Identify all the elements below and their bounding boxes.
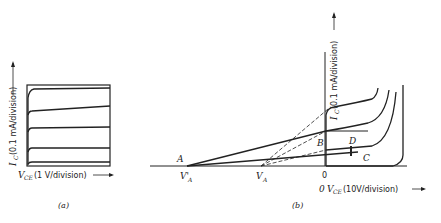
- curve-ib3: [28, 127, 110, 132]
- panel-b-x-axis-label: 0 V CE (10V/division): [319, 184, 398, 195]
- label-va-prime: V' A: [180, 171, 193, 183]
- label-c: C: [363, 153, 370, 163]
- svg-text:I: I: [329, 116, 339, 121]
- svg-text:(1 V/division): (1 V/division): [34, 171, 87, 180]
- panel-b-y-axis-label: I C (0.1 mA/division): [329, 41, 340, 121]
- curve-ib1: [28, 162, 110, 164]
- panel-a-x-axis-label: V CE (1 V/division): [18, 170, 87, 181]
- panel-a-caption: (a): [58, 201, 69, 210]
- svg-text:CE: CE: [333, 188, 343, 195]
- label-d: D: [348, 136, 356, 146]
- panel-a-x-arrowhead: [109, 173, 114, 177]
- curve-ib5: [28, 88, 110, 165]
- svg-text:0: 0: [319, 184, 325, 194]
- svg-text:I: I: [8, 162, 18, 167]
- curve-ib2: [28, 148, 110, 152]
- panel-b-x-arrowhead: [421, 187, 426, 191]
- label-va: V A: [256, 171, 268, 183]
- figure-canvas: I C (0.1 mA/division) V CE (1 V/division…: [0, 0, 441, 223]
- svg-text:(10V/division): (10V/division): [343, 185, 398, 194]
- svg-text:CE: CE: [24, 174, 34, 181]
- curve-ib4: [28, 106, 110, 115]
- panel-b-y-arrowhead: [332, 12, 336, 18]
- label-a: A: [176, 154, 184, 164]
- panel-a-plot: I C (0.1 mA/division) V CE (1 V/division…: [8, 61, 114, 210]
- panel-a-frame: [27, 85, 110, 166]
- panel-a-y-axis-label: I C (0.1 mA/division): [8, 87, 19, 167]
- panel-b-plot: A B C D V' A V A 0 0 V CE (10V/division)…: [150, 12, 426, 210]
- origin-label: 0: [322, 171, 327, 180]
- dashed-extrapolation-2: [261, 131, 326, 166]
- svg-text:A: A: [187, 176, 193, 183]
- svg-text:A: A: [262, 176, 268, 183]
- panel-b-caption: (b): [292, 201, 303, 210]
- svg-text:(0.1 mA/division): (0.1 mA/division): [9, 87, 18, 155]
- label-b: B: [316, 138, 324, 148]
- svg-text:(0.1 mA/division): (0.1 mA/division): [330, 41, 339, 109]
- panel-a-y-arrowhead: [11, 61, 15, 67]
